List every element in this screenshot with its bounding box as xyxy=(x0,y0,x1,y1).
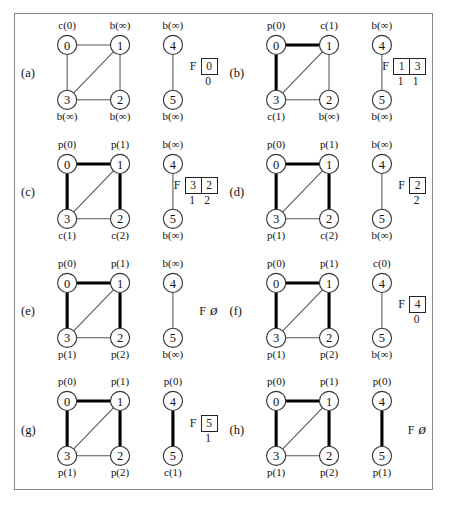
graph-node-0: 0p(0) xyxy=(266,19,285,54)
graph-node-3: 3b(∞) xyxy=(57,90,78,123)
queue-cells-row: 0 xyxy=(201,58,218,75)
graph-node-4: 4b(∞) xyxy=(371,138,392,173)
queue-subscript: 2 xyxy=(200,194,215,207)
node-state-label: b(∞) xyxy=(110,19,131,32)
graph-node-0: 0p(0) xyxy=(58,376,77,411)
graph-node-3: 3p(1) xyxy=(58,328,77,361)
node-id-label: 1 xyxy=(117,39,123,53)
node-state-label: c(1) xyxy=(320,19,338,32)
node-id-label: 2 xyxy=(117,212,123,226)
node-id-label: 4 xyxy=(378,276,385,290)
figure-frame: (a)0c(0)1b(∞)3b(∞)2b(∞)4b(∞)5b(∞)F00(b)0… xyxy=(14,13,433,490)
frontier-queue: F22 xyxy=(398,177,426,207)
node-state-label: b(∞) xyxy=(371,138,392,151)
queue-table: 3212 xyxy=(185,177,218,207)
graph-node-0: 0p(0) xyxy=(58,138,77,173)
node-id-label: 5 xyxy=(378,331,384,345)
node-id-label: 5 xyxy=(170,93,176,107)
node-state-label: p(1) xyxy=(111,257,130,270)
node-id-label: 4 xyxy=(170,395,177,409)
graph-node-0: 0p(0) xyxy=(266,376,285,411)
node-state-label: p(0) xyxy=(58,376,77,389)
frontier-queue: Fø xyxy=(408,422,426,438)
node-id-label: 3 xyxy=(64,331,70,345)
queue-cell: 2 xyxy=(202,178,217,193)
queue-subscript: 2 xyxy=(409,194,424,207)
node-id-label: 4 xyxy=(170,39,177,53)
graph-node-2: 2p(2) xyxy=(319,328,338,361)
queue-subscript-row: 11 xyxy=(393,75,423,88)
graph-node-1: 1p(1) xyxy=(319,376,338,411)
node-id-label: 4 xyxy=(378,39,385,53)
panel-tag: (h) xyxy=(230,422,245,437)
queue-subscript-row: 12 xyxy=(185,194,215,207)
graph-node-2: 2p(2) xyxy=(110,446,129,479)
panel-f: (f)0p(0)1p(1)3p(1)2p(2)4c(0)5b(∞)F40 xyxy=(224,252,433,371)
graph-node-3: 3c(1) xyxy=(58,209,77,242)
node-state-label: p(2) xyxy=(319,348,338,361)
frontier-queue: F51 xyxy=(190,415,218,445)
panel-d: (d)0p(0)1p(1)3p(1)2c(2)4b(∞)5b(∞)F22 xyxy=(224,133,433,252)
node-id-label: 2 xyxy=(325,450,331,464)
graph-edge-1-3 xyxy=(282,52,322,93)
frontier-letter: F xyxy=(398,296,405,312)
node-state-label: b(∞) xyxy=(371,229,392,242)
queue-subscript: 0 xyxy=(409,313,424,326)
node-id-label: 3 xyxy=(273,450,279,464)
queue-cells-row: 4 xyxy=(409,296,426,313)
panel-tag: (a) xyxy=(21,66,35,81)
node-id-label: 1 xyxy=(325,395,331,409)
graph-node-5: 5b(∞) xyxy=(163,328,184,361)
node-id-label: 0 xyxy=(64,276,70,290)
graph-node-5: 5c(1) xyxy=(163,446,182,479)
node-state-label: b(∞) xyxy=(163,229,184,242)
panel-tag: (d) xyxy=(230,185,245,200)
node-id-label: 5 xyxy=(170,212,176,226)
frontier-letter: F xyxy=(190,415,197,431)
node-state-label: b(∞) xyxy=(163,348,184,361)
queue-cell: 4 xyxy=(410,297,425,312)
frontier-letter: F xyxy=(408,422,415,438)
node-id-label: 0 xyxy=(64,39,70,53)
node-id-label: 5 xyxy=(378,212,384,226)
graph-edge-1-3 xyxy=(74,171,114,212)
node-id-label: 2 xyxy=(325,93,331,107)
node-state-label: b(∞) xyxy=(163,19,184,32)
panel-a: (a)0c(0)1b(∞)3b(∞)2b(∞)4b(∞)5b(∞)F00 xyxy=(15,14,224,133)
node-state-label: p(1) xyxy=(372,467,391,480)
queue-table: 1311 xyxy=(393,58,426,88)
node-state-label: p(0) xyxy=(372,376,391,389)
node-state-label: p(1) xyxy=(58,467,77,480)
queue-cells-row: 32 xyxy=(185,177,218,194)
graph-edge-1-3 xyxy=(282,408,322,449)
node-state-label: p(1) xyxy=(319,376,338,389)
graph-node-4: 4p(0) xyxy=(163,376,182,411)
node-id-label: 0 xyxy=(273,157,279,171)
graph-edge-1-3 xyxy=(282,171,322,212)
queue-subscript: 1 xyxy=(185,194,200,207)
node-state-label: p(2) xyxy=(111,348,130,361)
frontier-queue: Fø xyxy=(199,303,217,319)
queue-cell: 2 xyxy=(410,178,425,193)
node-state-label: p(0) xyxy=(267,257,286,270)
node-state-label: b(∞) xyxy=(371,110,392,123)
graph-node-3: 3p(1) xyxy=(266,446,285,479)
graph-node-2: 2b(∞) xyxy=(110,90,131,123)
queue-cells-row: 5 xyxy=(201,415,218,432)
node-id-label: 4 xyxy=(378,395,385,409)
node-id-label: 3 xyxy=(64,93,70,107)
graph-edge-1-3 xyxy=(74,408,114,449)
node-id-label: 2 xyxy=(325,331,331,345)
node-id-label: 1 xyxy=(325,276,331,290)
node-state-label: p(1) xyxy=(58,348,77,361)
node-state-label: p(0) xyxy=(267,138,286,151)
graph-node-1: 1p(1) xyxy=(319,257,338,292)
graph-node-5: 5b(∞) xyxy=(163,209,184,242)
queue-subscript-row: 0 xyxy=(201,75,216,88)
queue-table: 51 xyxy=(201,415,218,445)
panel-c: (c)0p(0)1p(1)3c(1)2c(2)4b(∞)5b(∞)F3212 xyxy=(15,133,224,252)
graph-edge-1-3 xyxy=(74,289,114,330)
graph-node-3: 3c(1) xyxy=(266,90,285,123)
node-id-label: 4 xyxy=(170,157,177,171)
node-state-label: p(1) xyxy=(319,257,338,270)
